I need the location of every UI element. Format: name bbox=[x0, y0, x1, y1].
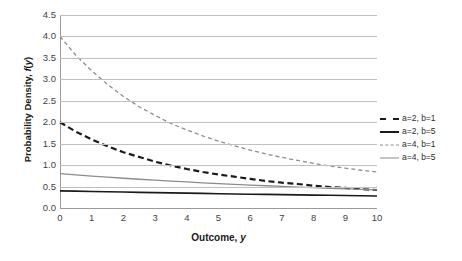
x-tick-label: 3 bbox=[143, 213, 167, 223]
legend-swatch-icon bbox=[380, 154, 399, 162]
x-tick-label: 4 bbox=[175, 213, 199, 223]
legend-swatch-icon bbox=[380, 128, 399, 136]
x-tick-label: 6 bbox=[238, 213, 262, 223]
gridline bbox=[60, 122, 377, 123]
gridline bbox=[60, 144, 377, 145]
legend-label: a=2, b=5 bbox=[402, 127, 436, 136]
gridline bbox=[60, 15, 377, 16]
series-line bbox=[60, 36, 377, 172]
gridline bbox=[60, 36, 377, 37]
x-tick-label: 9 bbox=[333, 213, 357, 223]
legend-label: a=4, b=5 bbox=[402, 153, 436, 162]
x-tick-label: 8 bbox=[302, 213, 326, 223]
gridline bbox=[60, 58, 377, 59]
legend-item[interactable]: a=4, b=5 bbox=[380, 151, 462, 164]
legend-swatch-icon bbox=[380, 141, 399, 149]
legend-label: a=4, b=1 bbox=[402, 140, 436, 149]
legend-item[interactable]: a=2, b=5 bbox=[380, 125, 462, 138]
x-tick-label: 1 bbox=[80, 213, 104, 223]
y-axis-variable: f bbox=[22, 68, 33, 71]
series-line bbox=[60, 122, 377, 190]
gridline bbox=[60, 79, 377, 80]
x-tick-label: 5 bbox=[207, 213, 231, 223]
gridline bbox=[60, 101, 377, 102]
legend-swatch-icon bbox=[380, 115, 399, 123]
x-tick-label: 10 bbox=[365, 213, 389, 223]
x-axis-variable: y bbox=[240, 232, 246, 243]
series-line bbox=[60, 191, 377, 196]
x-axis-title: Outcome, y bbox=[60, 232, 377, 243]
legend-label: a=2, b=1 bbox=[402, 114, 436, 123]
x-tick-label: 2 bbox=[111, 213, 135, 223]
x-tick-label: 7 bbox=[270, 213, 294, 223]
gridline bbox=[60, 165, 377, 166]
gridline bbox=[60, 208, 377, 209]
chart-legend: a=2, b=1a=2, b=5a=4, b=1a=4, b=5 bbox=[380, 112, 462, 164]
series-curves bbox=[60, 15, 377, 208]
x-tick-label: 0 bbox=[48, 213, 72, 223]
probability-density-chart: 0.00.51.01.52.02.53.03.54.04.5 012345678… bbox=[0, 0, 462, 261]
y-axis-title: Probability Density, f(y) bbox=[22, 10, 33, 210]
plot-area bbox=[60, 15, 377, 208]
legend-item[interactable]: a=2, b=1 bbox=[380, 112, 462, 125]
gridline bbox=[60, 187, 377, 188]
legend-item[interactable]: a=4, b=1 bbox=[380, 138, 462, 151]
x-axis-tick-labels: 012345678910 bbox=[60, 213, 377, 227]
